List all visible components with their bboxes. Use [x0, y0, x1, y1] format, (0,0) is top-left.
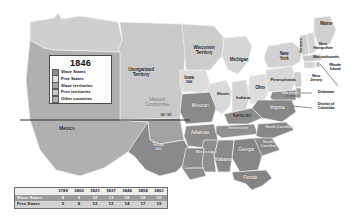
slave-1861: 15 — [151, 195, 167, 202]
label-tennessee: Tennessee — [220, 126, 256, 130]
label-kentucky: Kentucky — [226, 114, 258, 119]
label-north-carolina: North Carolina — [256, 125, 302, 129]
label-missouri-compromise: Missouri Compromise — [130, 98, 184, 107]
label-maryland: Maryland — [276, 91, 304, 95]
region-rhode-island — [316, 62, 320, 67]
slave-1821: 12 — [87, 195, 103, 202]
legend-item-free-states[interactable]: Free States — [52, 76, 112, 82]
sc-line2: Carolina — [260, 143, 275, 148]
legend-year-title: 1846 — [50, 58, 111, 68]
region-connecticut — [304, 62, 315, 68]
label-new-hampshire: New Hampshire — [306, 42, 340, 50]
ri-line2: Island — [330, 66, 341, 71]
legend-item-slave-territories[interactable]: Slave territories — [52, 83, 112, 89]
label-unorganized-territory: Unorganized Territory — [118, 68, 164, 77]
map-legend: 1846 Slave States Free States Slave terr… — [49, 55, 112, 104]
table-rowlabel-free-states: Free States — [15, 201, 55, 208]
dc-line2: Columbia — [318, 105, 335, 110]
region-michigan — [222, 36, 252, 74]
table-year-1789: 1789 — [55, 188, 71, 195]
label-rhode-island: Rhode Island — [322, 63, 348, 71]
free-1861: 19 — [151, 201, 167, 208]
table-year-1837: 1837 — [103, 188, 119, 195]
state-count-table: 1789 1800 1821 1837 1846 1858 1861 Slave… — [14, 187, 168, 209]
label-new-york: New York — [272, 52, 296, 61]
slave-1800: 9 — [71, 195, 87, 202]
free-1846: 14 — [119, 201, 135, 208]
legend-label-slave-states: Slave States — [61, 70, 86, 74]
label-maine: Maine — [314, 22, 338, 27]
label-delaware: Delaware — [312, 90, 340, 94]
slave-1858: 15 — [135, 195, 151, 202]
table-header-row: 1789 1800 1821 1837 1846 1858 1861 — [15, 188, 167, 195]
free-1789: 5 — [55, 201, 71, 208]
label-new-jersey: New Jersey — [305, 74, 327, 82]
legend-item-free-territories[interactable]: Free territories — [52, 89, 112, 95]
table-row-slave-states: Slave States 8 9 12 13 15 15 15 — [15, 195, 167, 202]
label-alabama: Alabama — [208, 158, 238, 163]
dc-leader-line — [292, 106, 312, 108]
label-virginia: Virginia — [262, 106, 292, 111]
table-year-1800: 1800 — [71, 188, 87, 195]
table-row-free-states: Free States 5 8 12 13 14 17 19 — [15, 201, 167, 208]
table-year-1861: 1861 — [151, 188, 167, 195]
legend-label-free-territories: Free territories — [61, 90, 91, 94]
free-1821: 12 — [87, 201, 103, 208]
iowa-year: 1846 — [178, 81, 200, 84]
mc-line2: Compromise — [145, 102, 169, 107]
label-wisconsin-territory: Wisconsin Territory — [184, 46, 224, 55]
free-1800: 8 — [71, 201, 87, 208]
label-mississippi: Mississippi — [188, 150, 224, 154]
free-1837: 13 — [103, 201, 119, 208]
slave-1837: 13 — [103, 195, 119, 202]
label-iowa: Iowa 1846 — [178, 76, 200, 84]
label-pennsylvania: Pennsylvania — [264, 78, 302, 82]
label-arkansas: Arkansas — [184, 131, 216, 136]
label-latitude-36-30: 36° 30' — [150, 113, 182, 117]
legend-item-other-countries[interactable]: Other countries — [52, 96, 112, 102]
label-louisiana: Louisiana — [178, 166, 210, 170]
ny-line2: York — [280, 56, 289, 61]
slave-1789: 8 — [55, 195, 71, 202]
texas-year: 1845 — [146, 148, 170, 151]
legend-label-slave-territories: Slave territories — [61, 84, 93, 88]
state-count-grid: 1789 1800 1821 1837 1846 1858 1861 Slave… — [15, 188, 167, 208]
region-oregon-country — [30, 13, 122, 52]
wisconsin-line2: Territory — [196, 50, 213, 55]
map-canvas: Unorganized Territory Missouri Compromis… — [0, 0, 351, 224]
legend-label-free-states: Free States — [61, 77, 84, 81]
label-district-of-columbia: District of Columbia — [310, 102, 342, 110]
unorganized-line2: Territory — [133, 72, 150, 77]
legend-swatch-other-countries — [52, 96, 60, 103]
label-georgia: Georgia — [232, 148, 260, 153]
label-vermont: Vermont — [299, 34, 303, 58]
table-year-1858: 1858 — [135, 188, 151, 195]
legend-item-slave-states[interactable]: Slave States — [52, 69, 112, 75]
free-1858: 17 — [135, 201, 151, 208]
label-indiana: Indiana — [230, 96, 256, 100]
slave-1846: 15 — [119, 195, 135, 202]
label-missouri: Missouri — [184, 104, 216, 109]
nh-line2: Hampshire — [313, 45, 332, 50]
label-ohio: Ohio — [250, 86, 270, 91]
label-massachusetts: Massachusetts — [304, 55, 348, 59]
table-year-1846: 1846 — [119, 188, 135, 195]
table-rowlabel-slave-states: Slave States — [15, 195, 55, 202]
label-texas: Texas 1845 — [146, 143, 170, 151]
label-florida: Florida — [236, 176, 264, 181]
table-year-1821: 1821 — [87, 188, 103, 195]
nj-line2: Jersey — [310, 77, 322, 82]
table-corner-cell — [15, 188, 55, 195]
label-mexico: Mexico — [48, 126, 86, 131]
label-michigan: Michigan — [222, 58, 256, 63]
legend-label-other-countries: Other countries — [61, 97, 92, 101]
